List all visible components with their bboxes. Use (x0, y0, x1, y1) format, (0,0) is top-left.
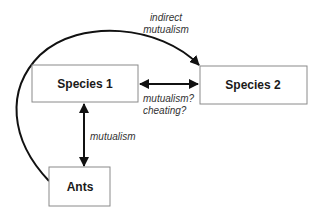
node-ants: Ants (49, 167, 110, 206)
indirect-label-line1: indirect (150, 12, 183, 23)
interaction-diagram: Species 1 Species 2 Ants indirect mutual… (0, 0, 316, 215)
ants-label: Ants (67, 180, 94, 194)
species2-label: Species 2 (225, 78, 281, 92)
species-edge-label-line1: mutualism? (143, 93, 195, 104)
species1-label: Species 1 (57, 77, 113, 91)
node-species2: Species 2 (200, 66, 307, 104)
ants-edge-label: mutualism (90, 131, 136, 142)
indirect-label-line2: mutualism (143, 24, 189, 35)
species-edge-label-line2: cheating? (143, 105, 187, 116)
node-species1: Species 1 (32, 65, 138, 102)
